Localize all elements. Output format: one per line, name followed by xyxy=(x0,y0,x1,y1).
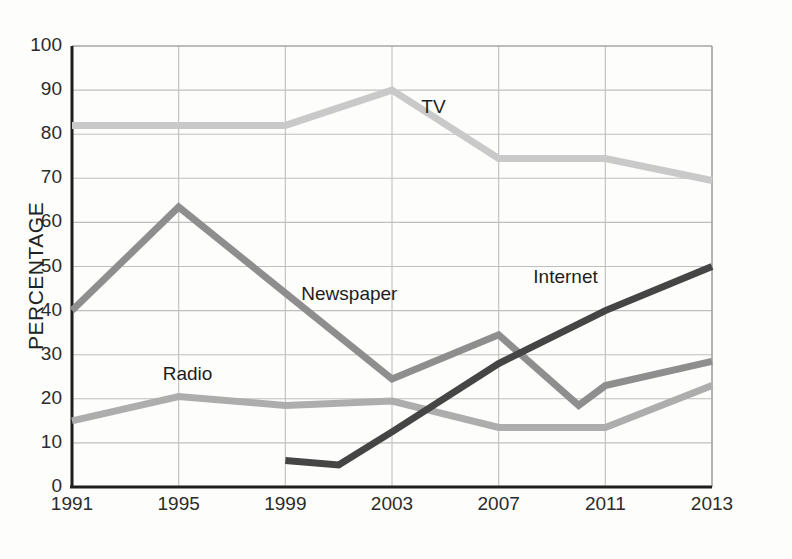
y-axis-title: PERCENTAGE xyxy=(24,202,48,350)
line-chart: 0102030405060708090100199119951999200320… xyxy=(0,0,792,559)
y-tick-label: 80 xyxy=(8,122,62,144)
y-tick-label: 100 xyxy=(8,34,62,56)
y-tick-label: 70 xyxy=(8,166,62,188)
x-tick-label: 1991 xyxy=(40,493,104,515)
x-tick-label: 2007 xyxy=(467,493,531,515)
y-tick-label: 20 xyxy=(8,387,62,409)
chart-canvas xyxy=(0,0,792,559)
x-tick-label: 1995 xyxy=(147,493,211,515)
series-label-newspaper: Newspaper xyxy=(301,283,397,305)
y-tick-label: 10 xyxy=(8,431,62,453)
x-tick-label: 1999 xyxy=(253,493,317,515)
x-tick-label: 2011 xyxy=(573,493,637,515)
series-label-radio: Radio xyxy=(163,363,213,385)
series-label-tv: TV xyxy=(421,96,445,118)
series-label-internet: Internet xyxy=(533,266,597,288)
y-tick-label: 90 xyxy=(8,78,62,100)
x-tick-label: 2003 xyxy=(360,493,424,515)
x-tick-label: 2013 xyxy=(680,493,744,515)
